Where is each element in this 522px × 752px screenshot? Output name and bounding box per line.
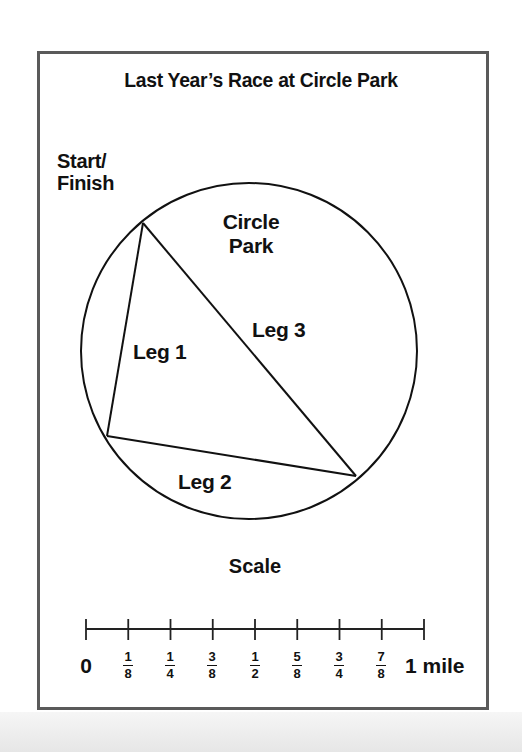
scale-label-1-4: 1 4 [155, 650, 185, 681]
scale-label-7-8: 7 8 [366, 650, 396, 681]
leg-2-line [107, 436, 356, 476]
scale-label-1-2: 1 2 [240, 650, 270, 681]
scale-label-zero: 0 [71, 654, 101, 678]
scale-label-1-8: 1 8 [113, 650, 143, 681]
scale-label-one-mile: 1 mile [405, 654, 465, 678]
denominator: 8 [282, 666, 312, 681]
start-finish-line2: Finish [57, 172, 114, 194]
denominator: 4 [155, 666, 185, 681]
scale-bar [86, 619, 424, 640]
scale-label-5-8: 5 8 [282, 650, 312, 681]
park-line2: Park [218, 234, 284, 258]
numerator: 3 [207, 650, 217, 666]
numerator: 3 [334, 650, 344, 666]
scale-label-3-4: 3 4 [324, 650, 354, 681]
denominator: 4 [324, 666, 354, 681]
numerator: 1 [123, 650, 133, 666]
denominator: 8 [113, 666, 143, 681]
leg-1-label: Leg 1 [133, 340, 186, 364]
race-diagram [0, 0, 522, 752]
numerator: 1 [165, 650, 175, 666]
leg-1-line [107, 223, 143, 436]
denominator: 8 [366, 666, 396, 681]
leg-2-label: Leg 2 [178, 470, 231, 494]
scale-label-3-8: 3 8 [197, 650, 227, 681]
denominator: 2 [240, 666, 270, 681]
start-finish-label: Start/ Finish [57, 150, 114, 195]
numerator: 5 [292, 650, 302, 666]
numerator: 7 [376, 650, 386, 666]
leg-3-label: Leg 3 [252, 318, 305, 342]
denominator: 8 [197, 666, 227, 681]
circle-park-label: Circle Park [218, 210, 284, 257]
scale-title: Scale [0, 555, 510, 578]
start-finish-line1: Start/ [57, 150, 114, 172]
park-line1: Circle [218, 210, 284, 234]
numerator: 1 [250, 650, 260, 666]
